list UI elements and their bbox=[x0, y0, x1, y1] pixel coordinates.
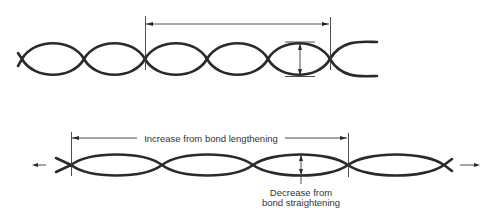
arrow-left-icon bbox=[72, 136, 79, 140]
arrow-left-icon bbox=[146, 22, 153, 26]
arrow-right-icon bbox=[322, 22, 329, 26]
length-increase-label: Increase from bond lengthening bbox=[144, 133, 278, 144]
top-diameter-marker bbox=[285, 42, 315, 77]
helix-diagram: Increase from bond lengthening Decrease … bbox=[0, 0, 502, 217]
top-helix bbox=[18, 42, 377, 77]
arrow-right-icon bbox=[340, 136, 347, 140]
tension-arrow-left bbox=[32, 163, 46, 167]
bottom-helix bbox=[56, 155, 452, 176]
arrow-up-icon bbox=[299, 155, 303, 161]
arrow-down-icon bbox=[299, 169, 303, 175]
arrow-right-icon bbox=[474, 163, 480, 167]
tension-arrow-right bbox=[460, 163, 480, 167]
arrow-left-icon bbox=[32, 163, 38, 167]
bottom-helix-strand-b bbox=[56, 155, 452, 176]
diameter-decrease-label-line2: bond straightening bbox=[262, 197, 340, 208]
bottom-diameter-marker: Decrease from bond straightening bbox=[262, 155, 340, 208]
